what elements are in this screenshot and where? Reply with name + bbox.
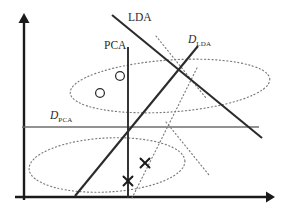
class-2-point-marker — [141, 159, 150, 168]
d-pca-label-subscript: PCA — [58, 116, 72, 124]
class-2-cluster-ellipse — [28, 134, 187, 196]
lda-projection-guide-lower-line — [166, 122, 209, 175]
pca-label: PCA — [104, 40, 126, 52]
lda-direction-line — [112, 15, 262, 138]
class-1-point-marker — [96, 89, 105, 98]
d-lda-projection-line — [75, 46, 198, 196]
d-lda-label-subscript: LDA — [196, 40, 211, 48]
figure-canvas: LDA PCA DLDA DPCA — [0, 0, 284, 218]
x-axis-arrowhead — [266, 192, 275, 203]
class-1-point-marker — [116, 72, 125, 81]
diagram-svg — [0, 0, 284, 218]
lda-label: LDA — [128, 12, 152, 24]
class-1-markers-group — [96, 72, 125, 98]
d-lda-label: DLDA — [188, 34, 211, 48]
y-axis-arrowhead — [19, 13, 30, 23]
cluster-ellipses-group — [28, 53, 272, 196]
projection-guides-group — [132, 36, 209, 198]
d-pca-label: DPCA — [50, 110, 73, 124]
